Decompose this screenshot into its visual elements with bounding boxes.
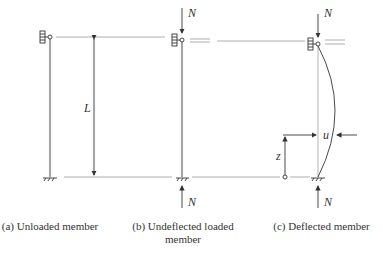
length-label: L bbox=[83, 101, 91, 115]
caption-c: (c) Deflected member bbox=[264, 220, 379, 232]
reference-lines bbox=[56, 37, 345, 177]
caption-a: (a) Unloaded member bbox=[0, 220, 100, 232]
load-top-c: N bbox=[323, 6, 333, 20]
caption-b-line2: member bbox=[128, 233, 238, 245]
deflection-label: u bbox=[323, 128, 329, 142]
load-bottom-c: N bbox=[323, 195, 333, 209]
height-label: z bbox=[275, 149, 281, 163]
load-top-b: N bbox=[187, 6, 197, 20]
member-b bbox=[172, 8, 189, 208]
member-c bbox=[283, 14, 357, 208]
buckling-diagram: L N N N N u z bbox=[0, 0, 383, 256]
caption-b-line1: (b) Undeflected loaded bbox=[128, 220, 238, 232]
load-bottom-b: N bbox=[187, 195, 197, 209]
